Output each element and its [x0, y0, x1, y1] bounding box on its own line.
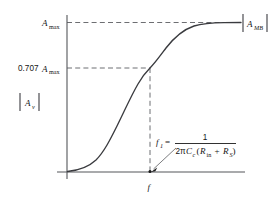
leader-line	[154, 148, 177, 169]
formula-cap-subscript: c	[193, 151, 196, 158]
amax-subscript: max	[49, 23, 61, 30]
y-label-subscript: v	[32, 103, 35, 110]
amb-symbol: A	[246, 19, 253, 29]
figure-container: A v A max 0.707 A max A MB f	[0, 0, 276, 197]
formula-close-paren: )	[233, 146, 236, 156]
half-power-subscript: max	[49, 68, 61, 75]
cutoff-leader	[149, 148, 177, 173]
formula-rs-symbol: R	[222, 146, 229, 156]
half-power-coefficient: 0.707	[18, 64, 39, 73]
midband-gain-label: A MB	[243, 14, 267, 32]
formula-equals: =	[165, 137, 170, 147]
formula-plus: +	[215, 146, 220, 156]
formula-numerator: 1	[203, 133, 208, 142]
y-label-symbol: A	[24, 98, 31, 108]
x-axis-label: f	[148, 182, 152, 192]
y-tick-half-power: 0.707 A max	[18, 64, 61, 76]
y-tick-amax: A max	[41, 18, 61, 30]
frequency-response-chart: A v A max 0.707 A max A MB f	[0, 0, 276, 197]
amax-symbol: A	[41, 18, 48, 28]
cutoff-formula: f 1 = 1 2π C c ( R in + R S )	[156, 133, 236, 158]
formula-two-pi: 2π	[176, 147, 187, 156]
formula-rin-symbol: R	[199, 146, 206, 156]
y-axis-label: A v	[20, 93, 39, 111]
cutoff-point-marker	[149, 170, 152, 173]
formula-rin-subscript: in	[207, 151, 212, 158]
formula-lhs-subscript: 1	[160, 142, 163, 149]
amb-subscript: MB	[253, 24, 263, 31]
half-power-symbol: A	[41, 64, 48, 74]
